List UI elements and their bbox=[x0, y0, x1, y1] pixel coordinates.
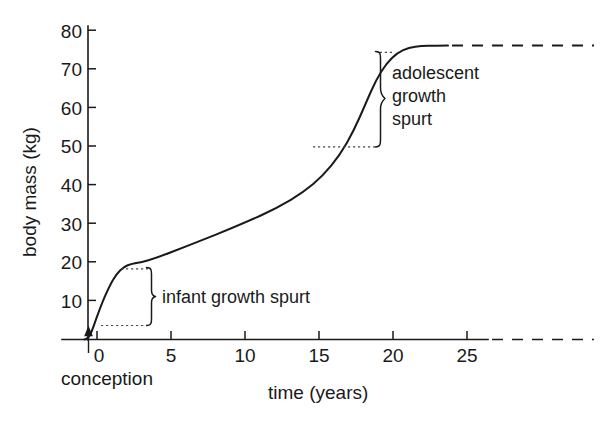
adolescent-brace-icon bbox=[376, 52, 386, 147]
x-tick-label-15: 15 bbox=[308, 345, 329, 366]
adolescent-growth-spurt-label-line3: spurt bbox=[392, 109, 432, 129]
x-axis-title: time (years) bbox=[268, 382, 368, 403]
adolescent-growth-spurt-annotation: adolescent growth spurt bbox=[313, 52, 479, 147]
y-axis-tick-labels: 80 70 60 50 40 30 20 10 bbox=[61, 21, 82, 312]
x-tick-label-25: 25 bbox=[456, 345, 477, 366]
x-tick-label-5: 5 bbox=[166, 345, 177, 366]
y-tick-label-10: 10 bbox=[61, 291, 82, 312]
y-tick-label-40: 40 bbox=[61, 175, 82, 196]
x-tick-label-10: 10 bbox=[234, 345, 255, 366]
infant-brace-icon bbox=[147, 268, 156, 326]
y-tick-label-70: 70 bbox=[61, 59, 82, 80]
y-axis-title: body mass (kg) bbox=[19, 127, 40, 257]
y-tick-label-80: 80 bbox=[61, 21, 82, 42]
adolescent-growth-spurt-label-line1: adolescent bbox=[392, 63, 479, 83]
y-tick-label-60: 60 bbox=[61, 98, 82, 119]
x-tick-label-20: 20 bbox=[382, 345, 403, 366]
x-axis-tick-labels: 0 5 10 15 20 25 bbox=[94, 345, 478, 366]
conception-label: conception bbox=[61, 368, 153, 389]
infant-growth-spurt-annotation: infant growth spurt bbox=[101, 268, 310, 326]
growth-chart-figure: 80 70 60 50 40 30 20 10 0 5 10 15 20 25 bbox=[0, 0, 608, 421]
y-tick-label-20: 20 bbox=[61, 252, 82, 273]
x-axis-ticks bbox=[97, 331, 467, 340]
x-tick-label-0: 0 bbox=[94, 345, 105, 366]
infant-growth-spurt-label: infant growth spurt bbox=[162, 287, 310, 307]
y-tick-label-30: 30 bbox=[61, 214, 82, 235]
adolescent-growth-spurt-label-line2: growth bbox=[392, 86, 446, 106]
y-tick-label-50: 50 bbox=[61, 136, 82, 157]
y-axis-ticks bbox=[88, 30, 96, 300]
growth-curve-svg: 80 70 60 50 40 30 20 10 0 5 10 15 20 25 bbox=[0, 0, 608, 421]
